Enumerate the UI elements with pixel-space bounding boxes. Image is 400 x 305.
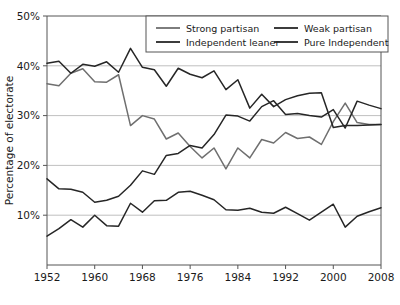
plot-frame (47, 16, 381, 265)
gridlines (47, 66, 381, 215)
legend-label-strong-partisan: Strong partisan (186, 23, 259, 34)
data-series (47, 48, 381, 236)
x-axis-tick-label: 1960 (81, 271, 108, 283)
x-axis-tick-label: 1968 (129, 271, 156, 283)
y-axis-tick-label: 40% (17, 60, 40, 72)
y-axis-title-text: Percentage of electorate (3, 76, 15, 205)
y-axis-title: Percentage of electorate (3, 76, 15, 205)
series-line-pure-independent (47, 191, 381, 236)
y-axis-tick-label: 10% (17, 209, 40, 221)
legend-label-pure-independent: Pure Independent (304, 37, 389, 48)
legend-label-independent-leaner: Independent leaner (186, 37, 279, 48)
x-axis-tick-label: 1984 (224, 271, 251, 283)
x-axis-tick-label: 1992 (272, 271, 299, 283)
y-axis-tick-label: 50% (17, 10, 40, 22)
plot-border (47, 16, 381, 265)
x-axis-tick-label: 1976 (177, 271, 204, 283)
x-axis-tick-label: 2000 (320, 271, 347, 283)
legend-label-weak-partisan: Weak partisan (304, 23, 372, 34)
chart-legend: Strong partisanWeak partisanIndependent … (146, 16, 389, 52)
chart-figure: 10%20%30%40%50%1952196019681976198419922… (0, 0, 400, 305)
x-axis-tick-label: 1952 (34, 271, 61, 283)
x-axis-tick-label: 2008 (368, 271, 395, 283)
y-axis-tick-label: 20% (17, 159, 40, 171)
y-axis-tick-label: 30% (17, 109, 40, 121)
axis-ticks (43, 16, 381, 269)
line-chart: 10%20%30%40%50%1952196019681976198419922… (0, 0, 400, 305)
